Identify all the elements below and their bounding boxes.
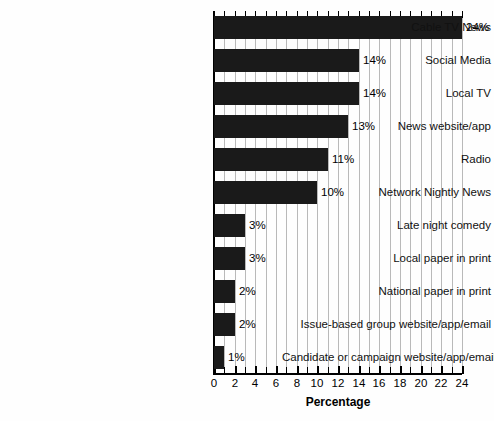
category-label: Radio bbox=[282, 148, 494, 171]
category-label: News website/app bbox=[282, 115, 494, 138]
bar-value-label: 2% bbox=[239, 280, 256, 303]
bar bbox=[214, 247, 245, 270]
category-label: Late night comedy bbox=[282, 214, 494, 237]
bar-chart: 24%14%14%13%11%10%3%3%2%2%1% Cable TV Ne… bbox=[0, 0, 494, 421]
bar bbox=[214, 313, 235, 336]
category-label: National paper in print bbox=[282, 280, 494, 303]
bar-value-label: 3% bbox=[249, 214, 266, 237]
tick-mark-bottom bbox=[255, 366, 257, 374]
category-label: Candidate or campaign website/app/email bbox=[282, 346, 494, 369]
bar-value-label: 2% bbox=[239, 313, 256, 336]
tick-mark-bottom bbox=[245, 367, 246, 374]
category-label: Local paper in print bbox=[282, 247, 494, 270]
category-label: Network Nightly News bbox=[282, 181, 494, 204]
bar bbox=[214, 214, 245, 237]
category-label: Social Media bbox=[282, 49, 494, 72]
category-label: Issue-based group website/app/email bbox=[282, 313, 494, 336]
category-label: Cable TV News bbox=[282, 16, 494, 39]
bar-value-label: 3% bbox=[249, 247, 266, 270]
bar bbox=[214, 280, 235, 303]
bar bbox=[214, 346, 224, 369]
x-axis-title: Percentage bbox=[214, 395, 462, 409]
category-label: Local TV bbox=[282, 82, 494, 105]
tick-mark-bottom bbox=[266, 367, 267, 374]
x-tick-label: 24 bbox=[447, 377, 477, 389]
tick-mark-bottom bbox=[224, 367, 225, 374]
tick-mark-bottom bbox=[276, 366, 278, 374]
bar-value-label: 1% bbox=[228, 346, 245, 369]
